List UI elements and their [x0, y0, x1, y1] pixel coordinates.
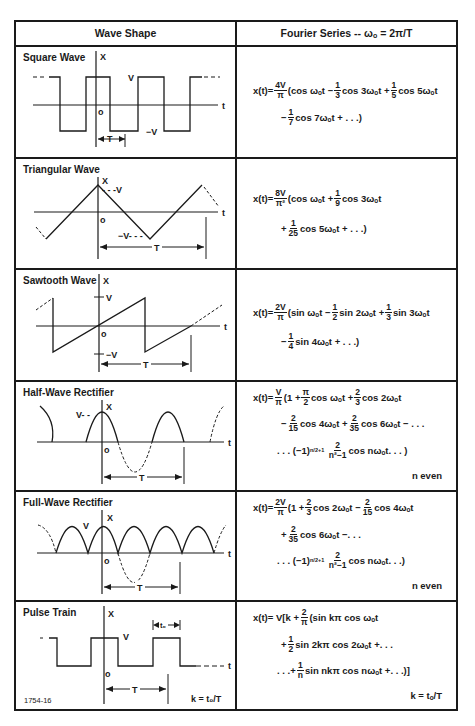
svg-text:t: t: [222, 101, 225, 111]
svg-text:T: T: [137, 583, 143, 593]
square-wave-formula: x(t)= 4Vπ (cos ωₒt − 13 cos 3ωₒt + 15 co…: [237, 47, 456, 157]
svg-text:X: X: [108, 609, 114, 619]
sawtooth-wave-plot: X V −V o t T: [16, 270, 235, 380]
svg-text:t: t: [228, 549, 231, 559]
half-wave-rectifier-formula: x(t)= Vπ (1 + π2 cos ωₒt + 23 cos 2ωₒt −…: [237, 382, 456, 490]
sawtooth-wave-diagram: Sawtooth Wave X V −V o t T: [16, 270, 235, 380]
pulse-train-plot: X V o t t₀ T k = t₀/T: [16, 602, 235, 708]
svg-text:V: V: [123, 632, 129, 642]
svg-text:T: T: [139, 473, 145, 483]
row-sawtooth-wave: Sawtooth Wave X V −V o t T: [16, 270, 456, 382]
svg-text:t₀: t₀: [160, 621, 166, 630]
svg-text:−V- - -: −V- - -: [118, 231, 143, 241]
square-wave-diagram: Square Wave X V −V o t T: [16, 47, 235, 157]
fourier-series-table: Wave Shape Fourier Series -- ωₒ = 2π/T S…: [14, 20, 458, 711]
svg-text:o: o: [100, 215, 106, 225]
svg-text:t: t: [228, 661, 231, 671]
svg-text:k = t₀/T: k = t₀/T: [191, 694, 222, 704]
square-wave-plot: X V −V o t T: [16, 47, 235, 157]
svg-text:X: X: [106, 402, 112, 412]
n-even-note: n even: [412, 580, 442, 591]
half-wave-rectifier-diagram: Half-Wave Rectifier X V- - o t T: [16, 382, 235, 490]
svg-text:T: T: [143, 360, 149, 370]
sawtooth-wave-formula: x(t)= 2Vπ (sin ωₒt − 12 sin 2ωₒt + 13 si…: [237, 270, 456, 380]
svg-text:X: X: [107, 513, 113, 523]
triangular-wave-diagram: Triangular Wave X - - -V −V- - - o t T: [16, 159, 235, 268]
n-even-note: n even: [412, 470, 442, 481]
full-wave-rectifier-plot: X V o t T: [16, 492, 235, 600]
row-triangular-wave: Triangular Wave X - - -V −V- - - o t T: [16, 159, 456, 270]
svg-text:t: t: [222, 208, 225, 218]
row-half-wave-rectifier: Half-Wave Rectifier X V- - o t T: [16, 382, 456, 492]
svg-text:o: o: [105, 669, 111, 679]
row-pulse-train: Pulse Train X V o t t₀ T k =: [16, 602, 456, 709]
header-wave-shape: Wave Shape: [16, 22, 235, 45]
svg-text:V: V: [83, 521, 89, 531]
k-note: k = tₒ/T: [410, 690, 442, 701]
svg-text:V- -: V- -: [76, 410, 90, 420]
svg-text:T: T: [132, 685, 138, 695]
svg-text:T: T: [107, 134, 113, 144]
half-wave-rectifier-plot: X V- - o t T: [16, 382, 235, 490]
svg-text:X: X: [103, 276, 109, 286]
svg-text:−V: −V: [146, 127, 157, 137]
svg-text:t: t: [224, 322, 227, 332]
full-wave-rectifier-formula: x(t)= 2Vπ (1 + 23 cos 2ωₒt − 215 cos 4ωₒ…: [237, 492, 456, 600]
figure-id: 1754-16: [24, 696, 52, 705]
header-fourier-series: Fourier Series -- ωₒ = 2π/T: [237, 22, 456, 45]
row-full-wave-rectifier: Full-Wave Rectifier X V o t T x: [16, 492, 456, 602]
svg-text:o: o: [104, 445, 110, 455]
svg-text:T: T: [154, 243, 160, 253]
svg-text:o: o: [104, 556, 110, 566]
x-axis-label: X: [100, 52, 106, 62]
full-wave-rectifier-diagram: Full-Wave Rectifier X V o t T: [16, 492, 235, 600]
svg-text:V: V: [106, 293, 112, 303]
svg-text:−V: −V: [106, 350, 117, 360]
svg-text:o: o: [101, 329, 107, 339]
svg-text:o: o: [98, 107, 104, 117]
row-square-wave: Square Wave X V −V o t T x(t)= 4V: [16, 47, 456, 159]
svg-text:- - -V: - - -V: [102, 185, 122, 195]
triangular-wave-formula: x(t)= 8Vπ² (cos ωₒt + 19 cos 3ωₒt + 125 …: [237, 159, 456, 268]
triangular-wave-plot: X - - -V −V- - - o t T: [16, 159, 235, 269]
svg-text:V: V: [128, 73, 134, 83]
svg-text:t: t: [228, 438, 231, 448]
pulse-train-formula: x(t)= V[k + 2π (sin kπ cos ωₒt + 12 sin …: [237, 602, 456, 709]
pulse-train-diagram: Pulse Train X V o t t₀ T k =: [16, 602, 235, 709]
